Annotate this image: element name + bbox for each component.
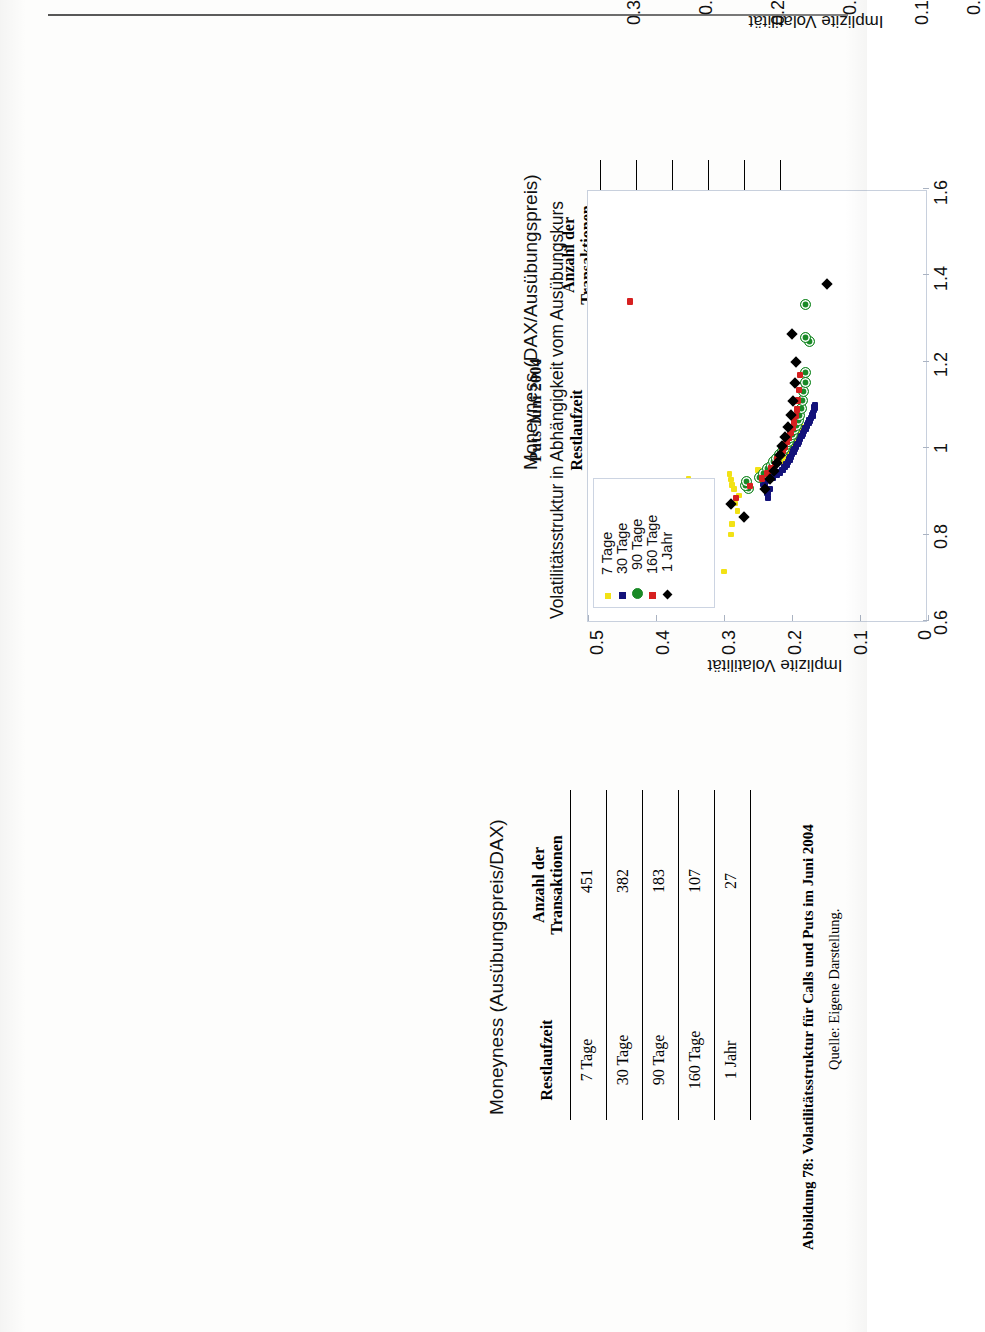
puts-table-rule-top [570, 790, 571, 1120]
puts-legend-label: 7 Tage [600, 532, 615, 575]
figure-caption-block: Abbildung 78: Volatilitätsstruktur für C… [800, 824, 817, 1250]
puts-y-tickmark [792, 615, 793, 621]
puts-table: Restlaufzeit Anzahl der Transaktionen 7 … [530, 790, 830, 1120]
puts-col2-line2: Transaktionen [548, 835, 565, 934]
puts-legend-item: 7 Tage [600, 487, 615, 599]
puts-xtick-1: 0.8 [931, 524, 952, 549]
puts-row0-value: 451 [578, 796, 596, 966]
calls-title: Calls Juni 2004 [562, 0, 580, 50]
puts-row4-label: 1 Jahr [722, 1000, 740, 1120]
puts-row3-value: 107 [686, 796, 704, 966]
puts-table-rule-3 [678, 790, 679, 1120]
puts-data-point [729, 521, 735, 527]
puts-row2-label: 90 Tage [650, 1000, 668, 1120]
puts-col2-line1: Anzahl der [530, 847, 547, 923]
puts-ytick-3: 0.2 [785, 630, 806, 678]
puts-row1-label: 30 Tage [614, 1000, 632, 1120]
puts-data-point [794, 406, 801, 413]
calls-y-axis-title: Implizite Volatilität [721, 11, 911, 31]
puts-subtitle: Volatilitätsstruktur in Abhängigkeit vom… [547, 130, 568, 690]
puts-y-tickmark [928, 615, 929, 621]
puts-data-point [790, 356, 801, 367]
figure-caption: Abbildung 78: Volatilitätsstruktur für C… [800, 824, 817, 1250]
puts-legend-square-icon [605, 593, 611, 599]
puts-legend-label: 160 Tage [645, 515, 660, 574]
puts-x-tickmark [923, 534, 929, 535]
puts-data-point [739, 512, 750, 523]
calls-plot-area: Implizite Volatilität 0.35 0.3 0.25 0.2 … [614, 0, 985, 50]
puts-table-row: 160 Tage 107 [686, 790, 704, 1120]
puts-xtick-0: 0.6 [931, 610, 952, 635]
puts-x-axis-title-text: Moneyness (Ausübungspreis/DAX) [486, 819, 508, 1115]
calls-chart: Calls Juni 2004 Volatilitätsstruktur in … [562, 0, 985, 50]
puts-ytick-2: 0.3 [719, 630, 740, 678]
calls-ytick-5: 0.1 [964, 0, 985, 38]
puts-xtick-5: 1.6 [931, 180, 952, 205]
puts-data-point [796, 387, 803, 394]
calls-ytick-2: 0.25 [768, 0, 789, 38]
puts-chart: Puts Juni 2004 Volatilitätsstruktur in A… [527, 130, 947, 690]
puts-table-row: 90 Tage 183 [650, 790, 668, 1120]
puts-row3-label: 160 Tage [686, 1000, 704, 1120]
puts-data-point [747, 483, 754, 490]
puts-xtick-2: 1 [931, 443, 952, 453]
figure-source: Quelle: Eigene Darstellung. [826, 909, 843, 1250]
puts-ytick-4: 0.1 [851, 630, 872, 678]
figure-source-block: Quelle: Eigene Darstellung. [826, 909, 843, 1250]
puts-data-point [800, 299, 811, 310]
puts-y-tickmark [588, 615, 589, 621]
puts-x-tickmark [923, 447, 929, 448]
puts-table-rule-2 [642, 790, 643, 1120]
puts-y-axis-title: Implizite Volatilität [680, 655, 870, 675]
calls-figure: Calls Juni 2004 Volatilitätsstruktur in … [560, 0, 985, 50]
puts-data-point [729, 482, 735, 488]
puts-table-col1-header: Restlaufzeit [538, 1000, 556, 1120]
puts-data-point [728, 477, 734, 483]
puts-data-point [765, 495, 772, 502]
puts-legend-diamond-icon [663, 590, 673, 600]
puts-title: Puts Juni 2004 [527, 130, 545, 690]
puts-table-rule-bottom [750, 790, 751, 1120]
puts-legend: 7 Tage30 Tage90 Tage160 Tage1 Jahr [593, 478, 715, 608]
puts-legend-circle-icon [632, 588, 643, 599]
puts-data-point [627, 298, 634, 305]
puts-legend-label: 1 Jahr [660, 532, 675, 572]
puts-x-tickmark [923, 361, 929, 362]
puts-plot-area: Implizite Volatilität 0.5 0.4 0.3 0.2 0.… [579, 130, 947, 690]
calls-ytick-4: 0.15 [912, 0, 933, 38]
puts-table-col2-header: Anzahl der Transaktionen [530, 800, 566, 970]
puts-figure: Puts Juni 2004 Volatilitätsstruktur in A… [525, 130, 945, 690]
puts-data-point [822, 278, 833, 289]
puts-data-point [812, 402, 819, 409]
calls-ytick-1: 0.3 [696, 0, 717, 38]
puts-row4-value: 27 [722, 796, 740, 966]
puts-legend-label: 90 Tage [630, 519, 645, 570]
puts-x-tickmark [923, 188, 929, 189]
puts-legend-item: 160 Tage [645, 487, 660, 599]
puts-table-row: 1 Jahr 27 [722, 790, 740, 1120]
puts-ytick-5: 0 [915, 630, 936, 678]
puts-data-point [786, 328, 797, 339]
puts-data-point [735, 508, 741, 514]
puts-legend-square-icon [619, 592, 626, 599]
puts-table-rule-4 [714, 790, 715, 1120]
puts-row0-label: 7 Tage [578, 1000, 596, 1120]
puts-data-point [721, 569, 727, 575]
puts-y-tickmark [724, 615, 725, 621]
puts-legend-item: 1 Jahr [660, 487, 675, 599]
puts-data-point [727, 471, 733, 477]
puts-ytick-0: 0.5 [587, 630, 608, 678]
puts-xtick-3: 1.2 [931, 352, 952, 377]
puts-table-row: 30 Tage 382 [614, 790, 632, 1120]
puts-legend-square-icon [649, 592, 656, 599]
calls-ytick-3: 0.2 [840, 0, 861, 38]
puts-x-tickmark [923, 274, 929, 275]
puts-ytick-1: 0.4 [653, 630, 674, 678]
puts-legend-label: 30 Tage [615, 523, 630, 574]
puts-data-point [800, 332, 811, 343]
puts-table-rule-1 [606, 790, 607, 1120]
puts-data-point [797, 372, 804, 379]
puts-legend-item: 90 Tage [630, 487, 645, 599]
puts-xtick-4: 1.4 [931, 266, 952, 291]
